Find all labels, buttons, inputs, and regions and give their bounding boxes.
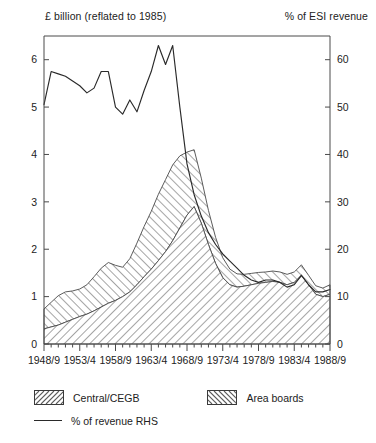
legend-row-primary: Central/CEGB Area boards <box>34 390 304 405</box>
left-axis-tick-labels: 0123456 <box>31 53 37 349</box>
svg-text:1988/9: 1988/9 <box>314 354 346 366</box>
area-series-group <box>44 150 330 344</box>
right-axis-tick-labels: 0102030405060 <box>337 53 349 349</box>
svg-text:30: 30 <box>337 196 349 208</box>
svg-text:50: 50 <box>337 101 349 113</box>
legend-label-area-boards: Area boards <box>246 392 303 404</box>
svg-text:0: 0 <box>31 338 37 350</box>
svg-text:6: 6 <box>31 53 37 65</box>
svg-text:60: 60 <box>337 53 349 65</box>
svg-text:20: 20 <box>337 243 349 255</box>
chart-figure: £ billion (reflated to 1985) % of ESI re… <box>0 0 376 443</box>
svg-text:1968/9: 1968/9 <box>171 354 203 366</box>
legend-label-central-cegb: Central/CEGB <box>73 392 140 404</box>
legend-item-percent-revenue: % of revenue RHS <box>34 413 158 427</box>
svg-text:10: 10 <box>337 290 349 302</box>
svg-text:1948/9: 1948/9 <box>28 354 60 366</box>
svg-text:1958/9: 1958/9 <box>99 354 131 366</box>
svg-text:2: 2 <box>31 243 37 255</box>
hatch-forward-swatch-icon <box>34 390 64 405</box>
svg-text:0: 0 <box>337 338 343 350</box>
legend-item-area-boards: Area boards <box>207 390 303 405</box>
chart-plot-area: 0123456 0102030405060 1948/91953/41958/9… <box>0 0 376 380</box>
hatch-backward-swatch-icon <box>207 390 237 405</box>
legend-row-secondary: % of revenue RHS <box>34 413 158 427</box>
svg-text:3: 3 <box>31 196 37 208</box>
svg-text:5: 5 <box>31 101 37 113</box>
svg-text:40: 40 <box>337 148 349 160</box>
svg-text:1983/4: 1983/4 <box>278 354 310 366</box>
svg-text:1978/9: 1978/9 <box>242 354 274 366</box>
line-swatch-icon <box>34 414 62 427</box>
svg-text:1953/4: 1953/4 <box>64 354 96 366</box>
svg-text:4: 4 <box>31 148 37 160</box>
legend-label-percent-revenue: % of revenue RHS <box>71 415 158 427</box>
legend-item-central-cegb: Central/CEGB <box>34 390 140 405</box>
x-axis-tick-labels: 1948/91953/41958/91963/41968/91973/41978… <box>28 354 346 366</box>
svg-text:1: 1 <box>31 290 37 302</box>
svg-text:1963/4: 1963/4 <box>135 354 167 366</box>
svg-text:1973/4: 1973/4 <box>207 354 239 366</box>
